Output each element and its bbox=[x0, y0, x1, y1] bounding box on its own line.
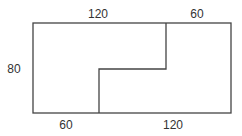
step-cut-line bbox=[99, 23, 166, 113]
bottom-right-dimension-label: 120 bbox=[163, 118, 183, 132]
outer-rectangle bbox=[33, 23, 231, 113]
bottom-left-dimension-label: 60 bbox=[59, 118, 73, 132]
step-cut-diagram: 120 60 80 60 120 bbox=[0, 0, 242, 136]
left-height-label: 80 bbox=[7, 62, 21, 76]
top-right-dimension-label: 60 bbox=[190, 7, 204, 21]
top-left-dimension-label: 120 bbox=[88, 7, 108, 21]
